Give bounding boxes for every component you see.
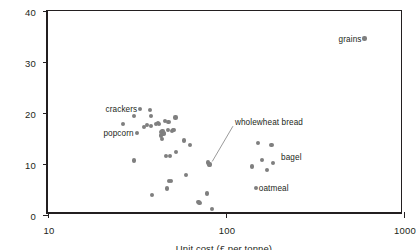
data-point — [149, 124, 153, 128]
data-point — [168, 154, 172, 158]
y-tick-label: 20 — [25, 109, 36, 120]
annotation-label-popcorn: popcorn — [103, 128, 133, 137]
data-point — [160, 137, 164, 141]
x-tick-label: 1000 — [394, 225, 416, 236]
y-tick: 30 — [43, 62, 48, 63]
data-point — [166, 120, 170, 124]
data-point — [184, 173, 188, 177]
x-tick: 1000 — [404, 212, 405, 218]
data-point — [121, 122, 125, 126]
data-point — [271, 161, 275, 165]
data-point — [150, 193, 154, 197]
data-point — [205, 191, 209, 195]
data-point — [173, 115, 177, 119]
annotation-label-oatmeal: oatmeal — [259, 183, 289, 192]
annotated-data-point-popcorn — [135, 131, 139, 135]
x-tick-label: 100 — [219, 225, 235, 236]
y-tick: 40 — [43, 11, 48, 12]
y-tick-label: 40 — [25, 7, 36, 18]
data-point — [149, 114, 153, 118]
annotation-label-grains: grains — [339, 34, 362, 43]
x-tick: 10 — [48, 212, 49, 218]
y-tick: 20 — [43, 113, 48, 114]
plot-area: 010203040 101001000 crackerspopcornwhole… — [46, 10, 402, 214]
data-point — [132, 114, 136, 118]
annotated-data-point-oatmeal — [254, 186, 258, 190]
data-point — [172, 128, 176, 132]
annotated-data-point-crackers — [138, 107, 142, 111]
y-tick-label: 30 — [25, 58, 36, 69]
y-tick-label: 10 — [25, 160, 36, 171]
data-point — [148, 108, 152, 112]
data-point — [269, 143, 273, 147]
data-point — [169, 179, 173, 183]
data-point — [210, 207, 214, 211]
y-tick-label: 0 — [31, 211, 36, 222]
data-point — [256, 141, 260, 145]
y-tick: 10 — [43, 164, 48, 165]
data-point — [260, 158, 264, 162]
data-point — [165, 186, 169, 190]
x-tick: 100 — [226, 212, 227, 218]
x-tick-label: 10 — [44, 225, 55, 236]
annotated-data-point-grains — [362, 36, 366, 40]
data-point — [174, 150, 178, 154]
annotation-label-bagel: bagel — [281, 153, 302, 162]
data-point — [197, 201, 201, 205]
data-point — [157, 122, 161, 126]
annotation-label-wholewheat-bread: wholewheat bread — [235, 118, 303, 127]
data-point — [208, 162, 212, 166]
leader-line-wholewheat-bread — [212, 126, 233, 161]
data-point — [188, 143, 192, 147]
annotation-label-crackers: crackers — [106, 104, 138, 113]
data-point — [265, 168, 269, 172]
x-axis-title: Unit cost (£ per tonne) — [46, 243, 402, 250]
data-point — [182, 138, 186, 142]
data-point — [250, 164, 254, 168]
data-point — [132, 158, 136, 162]
